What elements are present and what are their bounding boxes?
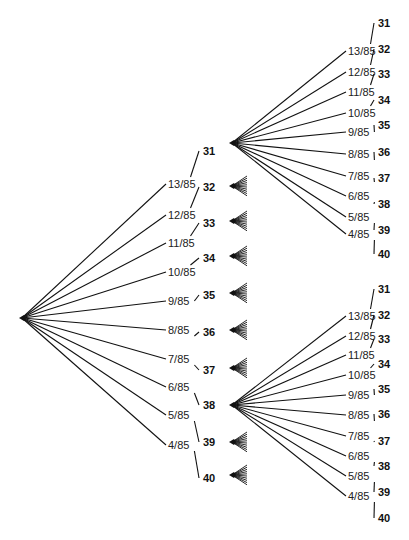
outcome-connector — [371, 364, 375, 368]
outcome-label: 39 — [203, 436, 215, 448]
collapsed-subtree-icon — [229, 246, 247, 266]
branch-probability: 12/85 — [348, 66, 376, 78]
branch-probability: 4/85 — [348, 228, 369, 240]
outcome-label: 40 — [378, 248, 390, 260]
collapsed-subtree-icon — [229, 358, 247, 378]
branch-probability: 11/85 — [348, 86, 375, 98]
outcome-label: 36 — [203, 326, 215, 338]
outcome-label: 39 — [378, 224, 390, 236]
outcome-label: 33 — [378, 333, 390, 345]
collapsed-subtree-icon — [229, 465, 247, 485]
main-tree: 13/853112/853211/853310/85349/85358/8536… — [19, 145, 216, 484]
outcome-connector — [194, 393, 199, 405]
outcome-connector — [194, 421, 199, 442]
outcome-label: 32 — [378, 309, 390, 321]
branch-line — [232, 405, 346, 496]
branch-line — [22, 301, 166, 318]
branch-line — [232, 405, 346, 456]
outcome-label: 31 — [378, 283, 390, 295]
branch-line — [232, 316, 346, 405]
outcome-connector — [371, 23, 375, 44]
outcome-connector — [194, 451, 199, 478]
branch-probability: 10/85 — [168, 266, 196, 278]
collapsed-subtree-icon — [229, 176, 247, 196]
branch-probability: 4/85 — [348, 490, 369, 502]
outcome-label: 32 — [378, 43, 390, 55]
branch-line — [22, 215, 166, 318]
branch-probability: 13/85 — [348, 45, 376, 57]
branch-probability: 8/85 — [348, 148, 369, 160]
branch-probability: 9/85 — [348, 389, 369, 401]
branch-probability: 13/85 — [168, 178, 196, 190]
branch-probability: 5/85 — [348, 211, 369, 223]
branch-probability: 5/85 — [168, 409, 189, 421]
outcome-label: 31 — [203, 145, 215, 157]
branch-probability: 8/85 — [348, 409, 369, 421]
branch-line — [22, 184, 166, 318]
branch-probability: 8/85 — [168, 324, 189, 336]
outcome-connector — [194, 365, 199, 370]
outcome-label: 40 — [378, 512, 390, 524]
outcome-label: 38 — [378, 460, 390, 472]
branch-line — [232, 336, 346, 405]
outcome-connector — [371, 289, 375, 309]
branch-probability: 5/85 — [348, 470, 369, 482]
outcome-connector — [191, 151, 200, 177]
branch-probability: 9/85 — [168, 295, 189, 307]
branch-probability: 6/85 — [168, 381, 189, 393]
collapsed-subtree-icon — [229, 320, 247, 340]
branch-probability: 10/85 — [348, 369, 376, 381]
outcome-connector — [191, 187, 200, 208]
branch-probability: 6/85 — [348, 190, 369, 202]
outcome-label: 36 — [378, 408, 390, 420]
branch-probability: 11/85 — [348, 349, 375, 361]
outcome-connector — [191, 223, 200, 236]
branch-line — [22, 318, 166, 415]
outcome-connector — [194, 295, 199, 301]
branch-probability: 13/85 — [348, 310, 376, 322]
branch-line — [232, 132, 346, 143]
branch-probability: 10/85 — [348, 107, 376, 119]
outcome-connector — [371, 100, 375, 106]
branch-probability: 11/85 — [168, 237, 195, 249]
outcome-label: 34 — [378, 94, 391, 106]
outcome-connector — [194, 332, 199, 336]
branch-probability: 9/85 — [348, 126, 369, 138]
branch-probability: 12/85 — [168, 209, 196, 221]
probability-tree-diagram: 13/853112/853211/853310/85349/85358/8536… — [0, 0, 409, 540]
outcome-label: 38 — [203, 399, 215, 411]
lower-subtree: 13/853112/853211/853310/85349/85358/8536… — [229, 283, 391, 524]
outcome-label: 38 — [378, 198, 390, 210]
branch-probability: 7/85 — [348, 430, 369, 442]
outcome-label: 34 — [203, 252, 216, 264]
collapsed-subtree-icon — [229, 211, 247, 231]
collapsed-subtree-icon — [229, 432, 247, 452]
outcome-label: 40 — [203, 472, 215, 484]
branch-probability: 7/85 — [168, 353, 189, 365]
outcome-label: 31 — [378, 17, 390, 29]
outcome-label: 39 — [378, 486, 390, 498]
branch-probability: 7/85 — [348, 170, 369, 182]
outcome-label: 35 — [203, 289, 215, 301]
branch-probability: 12/85 — [348, 330, 376, 342]
branch-line — [22, 243, 166, 318]
branch-line — [22, 272, 166, 318]
branch-line — [232, 72, 346, 143]
outcome-label: 37 — [203, 364, 215, 376]
outcome-label: 35 — [378, 383, 390, 395]
branch-line — [232, 143, 346, 217]
outcome-label: 33 — [378, 68, 390, 80]
outcome-label: 32 — [203, 181, 215, 193]
outcome-label: 36 — [378, 146, 390, 158]
outcome-label: 33 — [203, 217, 215, 229]
branch-line — [232, 405, 346, 476]
outcome-connector — [191, 258, 200, 265]
branch-probability: 4/85 — [168, 439, 189, 451]
outcome-label: 37 — [378, 435, 390, 447]
collapsed-subtree-icon — [229, 283, 247, 303]
upper-subtree: 13/853112/853211/853310/85349/85358/8536… — [229, 17, 391, 260]
branch-line — [232, 51, 346, 143]
branch-line — [22, 318, 166, 445]
branch-probability: 6/85 — [348, 450, 369, 462]
outcome-label: 35 — [378, 119, 390, 131]
